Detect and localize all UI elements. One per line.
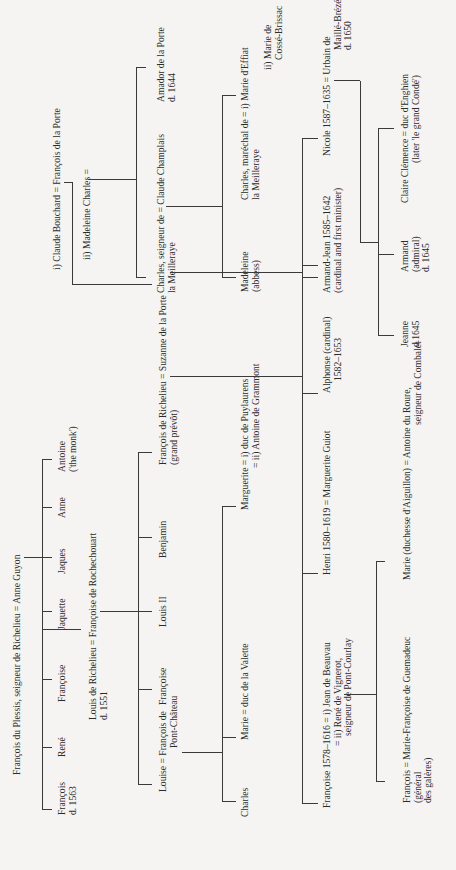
connector: [138, 452, 152, 453]
connector: [24, 557, 42, 558]
connector: [80, 629, 81, 630]
connector: [42, 460, 43, 810]
connector: [302, 265, 318, 266]
connector: [166, 206, 222, 207]
connector: [222, 737, 236, 738]
person-amador: Amador de la Porte d. 1644: [156, 27, 177, 102]
connector: [360, 242, 378, 243]
page: François du Plessis, seigneur de Richeli…: [0, 0, 456, 870]
connector: [222, 95, 236, 96]
connector: [136, 67, 146, 68]
connector: [222, 507, 223, 802]
person-marie-cosse-brissac: ii) Marie de Cossé-Brissac: [263, 6, 284, 70]
connector: [42, 459, 52, 460]
connector: [222, 277, 236, 278]
connector: [222, 96, 223, 278]
person-francois: François d. 1563: [57, 782, 78, 815]
connector: [360, 81, 361, 243]
connector: [138, 611, 152, 612]
connector: [334, 80, 360, 81]
connector: [138, 689, 152, 690]
connector: [64, 182, 72, 183]
connector: [170, 289, 171, 290]
connector: [378, 128, 394, 129]
connector: [42, 747, 52, 748]
connector: [42, 679, 52, 680]
person-jeanne: Jeanne d.1645: [400, 321, 421, 347]
connector: [376, 781, 385, 782]
connector: [138, 537, 152, 538]
person-francoise: Françoise: [57, 665, 68, 702]
founder-couple: François du Plessis, seigneur de Richeli…: [12, 555, 23, 775]
connector: [170, 376, 302, 377]
person-marie-duchesse-aiguillon: Marie (duchesse d'Aiguillon) = Antoine d…: [402, 341, 423, 580]
person-charles-marechal: Charles, maréchal de = i) Marie d'Effiat…: [240, 47, 261, 200]
la-porte-couple-1: i) Claude Bouchard = François de la Port…: [52, 108, 63, 270]
person-nicole: Nicole 1587–1635 = Urbain de Maillé-Bréz…: [322, 0, 354, 156]
person-marie-valette: Marie = duc de la Valette: [240, 643, 251, 740]
connector: [378, 129, 379, 336]
connector: [376, 561, 385, 562]
person-francoise-2: Françoise: [158, 668, 169, 705]
connector: [136, 277, 146, 278]
connector: [378, 335, 394, 336]
person-claire-clemence: Claire Clémence = duc d'Enghien (later '…: [400, 74, 421, 203]
person-armand-admiral: Armand (admiral) d. 1645: [400, 236, 432, 272]
connector: [72, 284, 152, 285]
louis-de-richelieu-couple: Louis de Richelieu = Françoise de Rochec…: [88, 533, 109, 720]
la-porte-couple-2: ii) Madeleine Charles =: [82, 169, 93, 260]
connector: [182, 752, 222, 753]
connector: [302, 573, 318, 574]
connector: [170, 272, 302, 273]
connector: [138, 784, 152, 785]
person-jaquette: Jaquette: [57, 599, 68, 630]
person-rene: René: [57, 737, 68, 757]
person-antoine: Antoine ('the monk'): [57, 426, 78, 472]
person-marguerite: Marguerite = i) duc de Puylaurens = ii) …: [240, 363, 261, 510]
connector: [302, 393, 318, 394]
connector: [302, 277, 318, 278]
connector: [344, 694, 376, 695]
connector: [302, 139, 303, 804]
connector: [42, 507, 52, 508]
family-tree-diagram: François du Plessis, seigneur de Richeli…: [0, 0, 456, 870]
connector: [136, 68, 137, 278]
connector: [222, 801, 236, 802]
connector: [378, 254, 394, 255]
connector: [302, 138, 318, 139]
connector: [42, 557, 52, 558]
connector: [42, 809, 52, 810]
person-louis-ii: Louis II: [158, 596, 169, 627]
person-benjamin: Benjamin: [158, 521, 169, 558]
person-francois-de-richelieu: François de Richelieu = Suzanne de la Po…: [158, 295, 179, 465]
connector: [42, 611, 52, 612]
person-anne: Anne: [57, 497, 68, 518]
connector: [88, 179, 136, 180]
connector: [138, 453, 139, 785]
person-alphonse: Alphonse (cardinal) 1582–1653: [322, 317, 343, 393]
person-charles-la-meilleraye: Charles, seigneur de = Claude Champlais …: [156, 134, 177, 293]
person-armand-jean: Armand-Jean 1585–1642 (cardinal and firs…: [322, 188, 343, 293]
person-francoise-1578: Françoise 1578–1616 = i) Jean de Beauvau…: [322, 638, 354, 808]
connector: [222, 506, 236, 507]
connector: [100, 611, 138, 612]
connector: [72, 182, 73, 285]
person-henri: Henri 1580–1619 = Marguerite Guiot: [322, 431, 333, 575]
connector: [376, 562, 377, 782]
connector: [302, 803, 318, 804]
person-jaques: Jaques: [57, 548, 68, 574]
person-francois-general-des-galeres: François = Marie-Françoise de Guemadeuc …: [402, 637, 434, 803]
person-louise: Louise = François de Pont-Château: [158, 696, 179, 792]
person-charles: Charles: [240, 788, 251, 817]
